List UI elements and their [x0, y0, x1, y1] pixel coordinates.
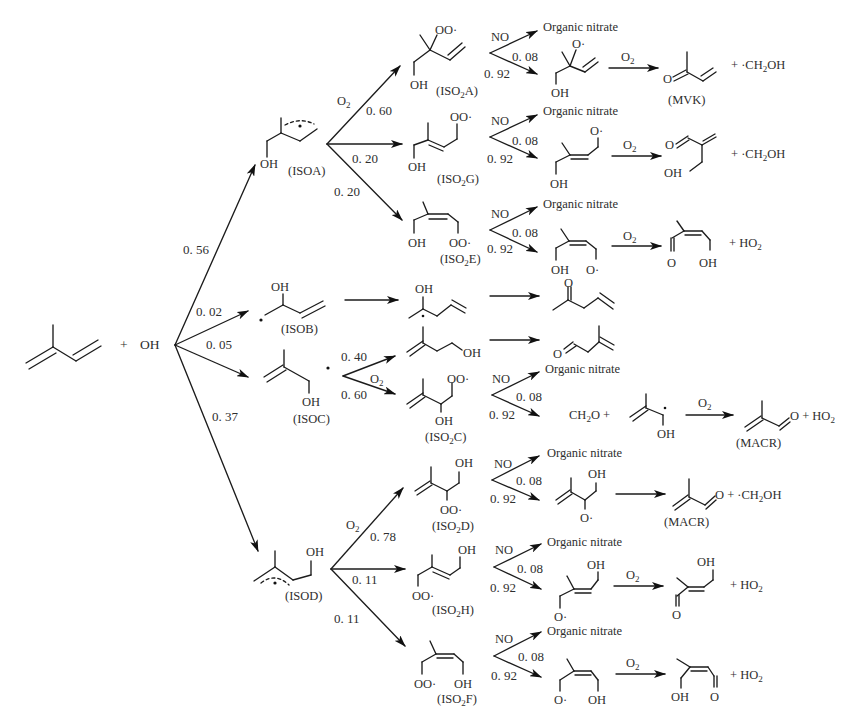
alkoxy-d-o: O·	[580, 511, 593, 525]
yield-alkoxy-h: 0. 92	[490, 581, 516, 595]
o2-label-f: O2	[626, 656, 640, 674]
iso2c-structure	[407, 379, 452, 412]
iso2g-structure	[414, 123, 457, 158]
yield-alkoxy-g: 0. 92	[487, 152, 513, 166]
isoc-label: (ISOC)	[293, 412, 330, 426]
iso2c-oh: OH	[435, 414, 453, 428]
isoc-oh: OH	[302, 395, 320, 409]
isoc-o2-label: O2	[370, 372, 384, 390]
oh-reactant-label: OH	[140, 338, 160, 352]
iso2c-oo: OO·	[447, 372, 469, 386]
ho2-h: + HO2	[730, 578, 763, 596]
product-h-o: O	[672, 608, 681, 622]
macr-label-d: (MACR)	[664, 515, 709, 529]
ch2oh-radical-g: + ·CH2OH	[731, 147, 785, 165]
organic-nitrate-h: Organic nitrate	[547, 535, 622, 549]
iso2h-label: (ISO2H)	[432, 603, 474, 621]
ketone-product-structure	[553, 287, 614, 310]
yield-iso2g: 0. 20	[352, 152, 378, 166]
iso2d-oh: OH	[455, 456, 473, 470]
reaction-structures-and-arrows	[0, 0, 862, 716]
alkoxy-g-oh: OH	[550, 177, 568, 191]
iso2e-label: (ISO2E)	[440, 252, 481, 270]
yield-isoa: 0. 56	[183, 243, 209, 257]
alkoxy-g-o: O·	[590, 124, 603, 138]
product-f-oh: OH	[671, 690, 689, 704]
o2-label-c: O2	[698, 396, 712, 414]
macr-label-c: (MACR)	[736, 436, 781, 450]
iso2f-label: (ISO2F)	[437, 692, 477, 710]
isoc-alcohol-structure	[407, 327, 462, 356]
yield-alkoxy-f: 0. 92	[491, 669, 517, 683]
yield-iso2a: 0. 60	[366, 104, 392, 118]
iso2d-oo: OO·	[440, 503, 462, 517]
no-label-c: NO	[492, 372, 510, 386]
iso2a-oh: OH	[410, 78, 428, 92]
alkoxy-f-o: O·	[554, 693, 567, 707]
product-g-o: O	[665, 138, 674, 152]
macr-structure-d	[673, 479, 716, 510]
iso2g-oh: OH	[408, 160, 426, 174]
organic-nitrate-f: Organic nitrate	[547, 624, 622, 638]
product-f-o: O	[710, 690, 719, 704]
alkoxy-d-structure	[556, 478, 596, 509]
yield-nitrate-g: 0. 08	[512, 134, 538, 148]
product-e-oh: OH	[699, 256, 717, 270]
alkoxy-f-oh: OH	[588, 693, 606, 707]
yield-nitrate-d: 0. 08	[516, 474, 542, 488]
alkoxy-g-structure	[556, 138, 598, 174]
isod-o2-label: O2	[346, 518, 360, 536]
mvk-o: O	[663, 72, 672, 86]
isob-radical-oh: OH	[415, 282, 433, 296]
isoa-o2-label: O2	[337, 94, 351, 112]
yield-iso2c: 0. 60	[341, 388, 367, 402]
alkoxy-e-oh: OH	[551, 263, 569, 277]
isod-label: (ISOD)	[285, 589, 323, 603]
yield-iso2h: 0. 11	[352, 573, 378, 587]
oh-branch-arrows	[175, 165, 258, 551]
no-label-f: NO	[495, 632, 513, 646]
iso2d-label: (ISO2D)	[432, 519, 474, 537]
product-e-structure	[671, 221, 710, 251]
alkoxy-e-structure	[556, 229, 596, 260]
iso2h-oh: OH	[458, 543, 476, 557]
organic-nitrate-c: Organic nitrate	[545, 362, 620, 376]
iso2c-label: (ISO2C)	[425, 430, 466, 448]
iso2h-oo: OO·	[412, 589, 434, 603]
macr-ho2-c: O + HO2	[790, 409, 835, 427]
product-h-oh: OH	[697, 555, 715, 569]
macr-structure-c	[745, 401, 790, 431]
isoc-alcohol-oh: OH	[463, 346, 481, 360]
hydroxyallyl-oh: OH	[657, 427, 675, 441]
isoc-structure	[264, 350, 330, 393]
o2-label-g: O2	[623, 138, 637, 156]
iso2d-structure	[415, 467, 459, 500]
no-label-h: NO	[495, 543, 513, 557]
alkoxy-a-oh: OH	[551, 86, 569, 100]
alkoxy-h-oh: OH	[587, 558, 605, 572]
product-e-o: O	[667, 256, 676, 270]
isob-oh: OH	[271, 280, 289, 294]
yield-nitrate-h: 0. 08	[517, 562, 543, 576]
isob-radical-structure	[409, 297, 466, 318]
iso2e-structure	[414, 202, 458, 233]
iso2e-oo: OO·	[449, 236, 471, 250]
alkoxy-h-o: O·	[554, 610, 567, 624]
yield-nitrate-c: 0. 08	[516, 390, 542, 404]
yield-iso2f: 0. 11	[334, 612, 360, 626]
aldehyde-o: O	[553, 347, 562, 361]
isob-label: (ISOB)	[281, 322, 318, 336]
isod-structure	[254, 551, 311, 585]
ketone-o: O	[564, 276, 573, 290]
ho2-e: + HO2	[729, 236, 762, 254]
product-f-structure	[677, 659, 717, 688]
product-g-oh: OH	[664, 166, 682, 180]
iso2a-oo: OO·	[435, 23, 457, 37]
reaction-mechanism-diagram: + OH 0. 56 0. 02 0. 05 0. 37 OH (ISOA) O…	[0, 0, 862, 716]
iso2g-label: (ISO2G)	[437, 172, 479, 190]
iso2h-structure	[418, 555, 460, 586]
ch2oh-radical-a: + ·CH2OH	[731, 58, 785, 76]
mvk-label: (MVK)	[668, 93, 706, 107]
isoprene-structure	[26, 325, 101, 369]
isoa-label: (ISOA)	[288, 164, 326, 178]
